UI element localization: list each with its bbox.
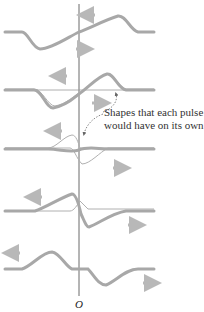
annotation-line-1: Shapes that each pulse: [104, 106, 204, 119]
wave-frame-2: [5, 74, 154, 108]
individual-pulse-up: [5, 135, 154, 148]
annotation-label: Shapes that each pulse would have on its…: [104, 106, 204, 132]
annotation-line-2: would have on its own: [104, 119, 204, 132]
wave-frame-4: [5, 194, 154, 227]
superposition-diagram: [0, 0, 204, 312]
wave-frame-5: [5, 252, 154, 285]
frame-5: [5, 252, 154, 285]
frame-2: [5, 74, 154, 108]
frame-3: [5, 131, 154, 168]
frame-4: [5, 194, 154, 227]
dashed-leader-lower: [84, 114, 103, 134]
origin-label: O: [75, 298, 83, 310]
wave-frame-1: [5, 16, 154, 49]
frame-1: [5, 15, 154, 49]
wave-frame-3: [5, 148, 154, 151]
